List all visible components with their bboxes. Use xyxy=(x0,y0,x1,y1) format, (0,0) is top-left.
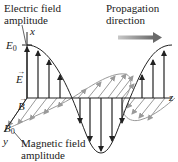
e0-label: E0 xyxy=(6,40,17,54)
propagation-label-1: Propagation xyxy=(106,3,159,14)
y-axis-label: y xyxy=(3,136,8,147)
b0-label: B0 xyxy=(4,123,15,137)
z-axis-label: z xyxy=(169,92,173,103)
magnetic-amplitude-label-2: amplitude xyxy=(21,150,65,161)
e-vector-label: → E xyxy=(16,74,23,85)
arrow-right-icon xyxy=(118,32,162,43)
propagation-label-2: direction xyxy=(106,15,145,26)
x-axis-label: x xyxy=(30,26,35,37)
electric-amplitude-label-2: amplitude xyxy=(4,15,48,26)
electric-amplitude-label-1: Electric field xyxy=(4,3,61,14)
electric-amplitude-leader xyxy=(22,25,26,44)
electric-field-vectors xyxy=(27,47,164,151)
magnetic-amplitude-label-1: Magnetic field xyxy=(21,138,85,149)
b-vector-label: → B xyxy=(18,101,25,112)
